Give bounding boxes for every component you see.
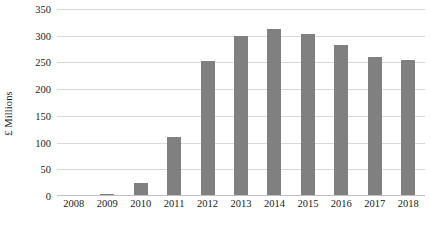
bar bbox=[201, 61, 215, 196]
bar-chart: £ Millions 050100150200250300350 2008200… bbox=[0, 0, 431, 226]
bar bbox=[368, 57, 382, 196]
y-axis-tick-labels: 050100150200250300350 bbox=[16, 0, 54, 226]
x-axis-tick-label: 2018 bbox=[392, 198, 425, 218]
y-axis-tick-label: 0 bbox=[46, 191, 51, 202]
bar bbox=[267, 29, 281, 196]
bar bbox=[401, 60, 415, 196]
bar bbox=[167, 137, 181, 196]
bar-slot bbox=[291, 9, 324, 196]
bar-slot bbox=[124, 9, 157, 196]
x-axis-line bbox=[57, 195, 425, 196]
bars-layer bbox=[57, 9, 425, 196]
bar-slot bbox=[157, 9, 190, 196]
x-axis-tick-label: 2010 bbox=[124, 198, 157, 218]
plot-area bbox=[57, 9, 425, 196]
x-axis-tick-label: 2011 bbox=[157, 198, 190, 218]
bar bbox=[234, 36, 248, 196]
bar-slot bbox=[90, 9, 123, 196]
bar-slot bbox=[325, 9, 358, 196]
bar-slot bbox=[392, 9, 425, 196]
x-axis-tick-label: 2009 bbox=[90, 198, 123, 218]
y-axis-tick-label: 300 bbox=[35, 30, 51, 41]
y-axis-tick-label: 350 bbox=[35, 4, 51, 15]
bar-slot bbox=[258, 9, 291, 196]
bar-slot bbox=[57, 9, 90, 196]
y-axis-tick-label: 150 bbox=[35, 110, 51, 121]
bar-slot bbox=[191, 9, 224, 196]
bar bbox=[334, 45, 348, 196]
x-axis-tick-label: 2015 bbox=[291, 198, 324, 218]
y-axis-tick-label: 100 bbox=[35, 137, 51, 148]
y-axis-tick-label: 250 bbox=[35, 57, 51, 68]
x-axis-tick-label: 2008 bbox=[57, 198, 90, 218]
bar-slot bbox=[358, 9, 391, 196]
x-axis-tick-label: 2013 bbox=[224, 198, 257, 218]
x-axis-tick-label: 2017 bbox=[358, 198, 391, 218]
y-axis-tick-label: 50 bbox=[41, 164, 52, 175]
bar-slot bbox=[224, 9, 257, 196]
y-axis-tick-label: 200 bbox=[35, 84, 51, 95]
x-axis-tick-label: 2012 bbox=[191, 198, 224, 218]
y-axis-title: £ Millions bbox=[0, 0, 16, 226]
x-axis-tick-labels: 2008200920102011201220132014201520162017… bbox=[57, 198, 425, 218]
bar bbox=[301, 34, 315, 196]
y-axis-title-label: £ Millions bbox=[3, 91, 14, 135]
x-axis-tick-label: 2014 bbox=[258, 198, 291, 218]
x-axis-tick-label: 2016 bbox=[325, 198, 358, 218]
